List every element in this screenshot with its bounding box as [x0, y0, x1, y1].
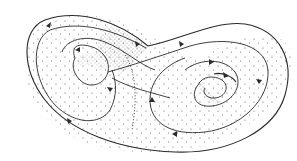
lorenz-attractor-figure: [0, 0, 297, 161]
arrow-icon: [179, 41, 184, 47]
stippled-surface: [25, 15, 292, 152]
attractor-drawing: [0, 0, 297, 161]
